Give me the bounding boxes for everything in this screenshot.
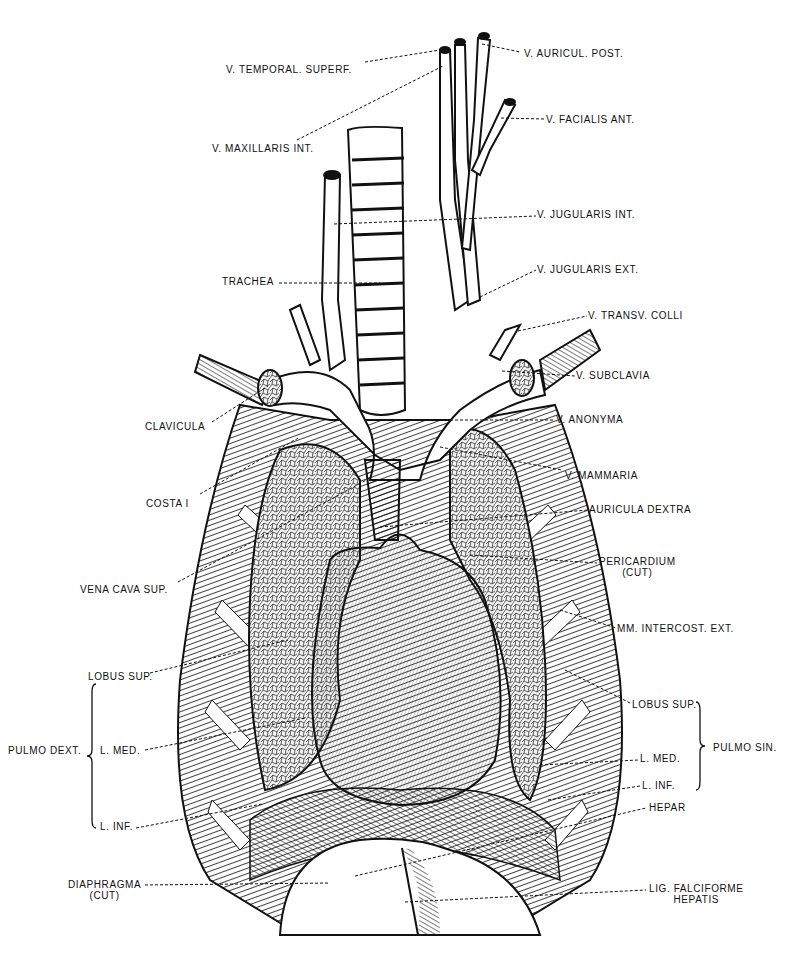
- label-text: DIAPHRAGMA: [68, 879, 141, 890]
- label-v-anonyma: V. ANONYMA: [556, 414, 623, 425]
- label-v-transv-colli: V. TRANSV. COLLI: [588, 310, 683, 321]
- label-l-med-dext: L. MED.: [100, 745, 140, 756]
- label-auricula-dextra: AURICULA DEXTRA: [589, 504, 691, 515]
- label-text: V. TRANSV. COLLI: [588, 310, 683, 321]
- label-text: PERICARDIUM: [599, 556, 676, 567]
- label-text: V. MAMMARIA: [565, 470, 638, 481]
- label-text: V. TEMPORAL. SUPERF.: [226, 64, 352, 75]
- label-v-facialis-ant: V. FACIALIS ANT.: [546, 114, 635, 125]
- label-text: COSTA I: [146, 498, 189, 509]
- label-subtext: HEPATIS: [649, 894, 744, 905]
- brace-pulmo-dext: [87, 684, 96, 828]
- label-diaphragma-cut: DIAPHRAGMA(CUT): [68, 879, 141, 901]
- label-subtext: (CUT): [68, 890, 141, 901]
- label-l-med-sin: L. MED.: [640, 753, 680, 764]
- label-text: L. MED.: [100, 745, 140, 756]
- label-mm-intercost-ext: MM. INTERCOST. EXT.: [617, 623, 734, 634]
- label-lobus-sup-sin: LOBUS SUP.: [632, 699, 697, 710]
- label-lobus-sup-dext: LOBUS SUP.: [88, 671, 153, 682]
- label-text: TRACHEA: [222, 276, 274, 287]
- label-costa-i: COSTA I: [146, 498, 189, 509]
- leader-v-transv-colli: [518, 316, 587, 331]
- label-text: V. ANONYMA: [556, 414, 623, 425]
- label-text: V. SUBCLAVIA: [576, 370, 650, 381]
- label-v-mammaria: V. MAMMARIA: [565, 470, 638, 481]
- label-l-inf-dext: L. INF.: [100, 821, 133, 832]
- label-v-temporal-superf: V. TEMPORAL. SUPERF.: [226, 64, 352, 75]
- label-v-jugularis-int: V. JUGULARIS INT.: [537, 209, 635, 220]
- label-text: V. JUGULARIS EXT.: [537, 264, 639, 275]
- label-text: HEPAR: [649, 802, 686, 813]
- label-text: L. MED.: [640, 753, 680, 764]
- label-text: MM. INTERCOST. EXT.: [617, 623, 734, 634]
- label-v-subclavia: V. SUBCLAVIA: [576, 370, 650, 381]
- label-pericardium-cut: PERICARDIUM(CUT): [599, 556, 676, 578]
- brace-pulmo-sin: [696, 702, 705, 790]
- label-subtext: (CUT): [599, 567, 676, 578]
- label-text: L. INF.: [642, 780, 675, 791]
- label-text: AURICULA DEXTRA: [589, 504, 691, 515]
- label-v-auricul-post: V. AURICUL. POST.: [524, 48, 623, 59]
- label-text: V. AURICUL. POST.: [524, 48, 623, 59]
- label-text: V. FACIALIS ANT.: [546, 114, 635, 125]
- label-vena-cava-sup: VENA CAVA SUP.: [80, 584, 168, 595]
- group-label-pulmo-sin: PULMO SIN.: [713, 742, 777, 753]
- anatomy-figure: V. TEMPORAL. SUPERF.V. AURICUL. POST.V. …: [0, 0, 790, 967]
- label-text: V. MAXILLARIS INT.: [212, 143, 314, 154]
- label-v-jugularis-ext: V. JUGULARIS EXT.: [537, 264, 639, 275]
- label-text: CLAVICULA: [145, 421, 205, 432]
- label-text: V. JUGULARIS INT.: [537, 209, 635, 220]
- label-clavicula: CLAVICULA: [145, 421, 205, 432]
- trachea-shape: [348, 127, 405, 415]
- label-v-maxillaris-int: V. MAXILLARIS INT.: [212, 143, 314, 154]
- leader-v-temporal-superf: [365, 50, 440, 62]
- label-text: LOBUS SUP.: [632, 699, 697, 710]
- label-lig-falciforme-hepatis: LIG. FALCIFORMEHEPATIS: [649, 883, 744, 905]
- label-text: LIG. FALCIFORME: [649, 883, 744, 894]
- label-text: L. INF.: [100, 821, 133, 832]
- leader-v-jugularis-ext: [480, 270, 536, 297]
- label-trachea: TRACHEA: [222, 276, 274, 287]
- label-text: VENA CAVA SUP.: [80, 584, 168, 595]
- label-l-inf-sin: L. INF.: [642, 780, 675, 791]
- group-label-pulmo-dext: PULMO DEXT.: [8, 745, 81, 756]
- label-text: LOBUS SUP.: [88, 671, 153, 682]
- label-hepar: HEPAR: [649, 802, 686, 813]
